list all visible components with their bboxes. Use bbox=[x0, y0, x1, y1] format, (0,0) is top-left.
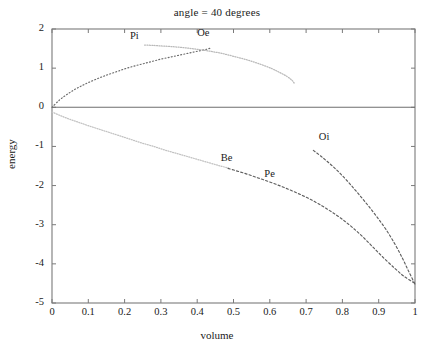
y-tick-label: 0 bbox=[0, 100, 44, 111]
x-tick-label: 0.8 bbox=[322, 306, 362, 317]
x-tick-label: 0.4 bbox=[177, 306, 217, 317]
curve-oi bbox=[313, 150, 415, 284]
plot-canvas bbox=[0, 0, 434, 353]
curve-label-oe: Oe bbox=[197, 27, 209, 38]
curve-oe bbox=[52, 48, 212, 107]
x-tick-label: 0.3 bbox=[141, 306, 181, 317]
y-tick-label: 1 bbox=[0, 61, 44, 72]
x-tick-label: 0.6 bbox=[250, 306, 290, 317]
y-tick-label: -5 bbox=[0, 296, 44, 307]
curve-label-pi: Pi bbox=[130, 30, 139, 41]
curve-label-pe: Pe bbox=[264, 168, 275, 179]
x-tick-label: 0.2 bbox=[105, 306, 145, 317]
axis-ticks bbox=[52, 29, 415, 303]
curve-be bbox=[52, 112, 228, 168]
curve-pi bbox=[145, 45, 295, 83]
x-tick-label: 0.7 bbox=[286, 306, 326, 317]
x-tick-label: 1 bbox=[395, 306, 434, 317]
curve-pe bbox=[228, 168, 415, 283]
y-tick-label: -3 bbox=[0, 218, 44, 229]
data-curves bbox=[52, 45, 415, 284]
y-tick-label: -2 bbox=[0, 179, 44, 190]
curve-label-oi: Oi bbox=[319, 131, 330, 142]
x-tick-label: 0 bbox=[32, 306, 72, 317]
chart-figure: angle = 40 degrees volume energy 00.10.2… bbox=[0, 0, 434, 353]
y-tick-label: -4 bbox=[0, 257, 44, 268]
y-tick-label: -1 bbox=[0, 139, 44, 150]
axes-frame bbox=[52, 29, 415, 303]
curve-label-be: Be bbox=[221, 152, 233, 163]
x-tick-label: 0.1 bbox=[68, 306, 108, 317]
x-tick-label: 0.9 bbox=[359, 306, 399, 317]
x-tick-label: 0.5 bbox=[214, 306, 254, 317]
y-tick-label: 2 bbox=[0, 22, 44, 33]
